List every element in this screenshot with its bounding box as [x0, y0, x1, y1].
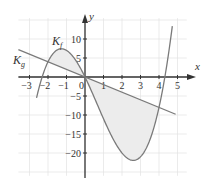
- x-tick-label: 3: [138, 80, 143, 91]
- y-axis-arrow-icon: [82, 14, 88, 23]
- function-graph: −3−2−112345105−5−10−15−20 x y 0 Kf Kg: [0, 0, 206, 183]
- x-axis-arrow-icon: [187, 74, 196, 80]
- x-tick-label: −1: [58, 80, 69, 91]
- origin-label: 0: [79, 80, 84, 91]
- y-tick-label: −10: [65, 110, 81, 121]
- y-axis-label: y: [88, 10, 94, 22]
- curve-label-kg: Kg: [12, 53, 25, 69]
- x-tick-label: −3: [21, 80, 32, 91]
- x-tick-label: 4: [157, 80, 162, 91]
- curve-label-kg-sub: g: [21, 60, 25, 69]
- y-tick-label: −20: [65, 148, 81, 159]
- x-axis-label: x: [194, 60, 200, 72]
- y-tick-label: −5: [70, 91, 81, 102]
- curve-label-kf: Kf: [51, 34, 64, 50]
- y-tick-label: 10: [71, 34, 81, 45]
- x-tick-label: 5: [175, 80, 180, 91]
- x-tick-label: 2: [120, 80, 125, 91]
- y-tick-label: −15: [65, 129, 81, 140]
